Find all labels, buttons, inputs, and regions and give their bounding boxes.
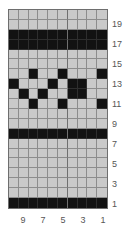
chart-cell[interactable] <box>78 89 88 99</box>
chart-cell[interactable] <box>38 129 48 139</box>
chart-cell[interactable] <box>58 69 68 79</box>
chart-cell[interactable] <box>19 89 29 99</box>
chart-cell[interactable] <box>48 109 58 119</box>
chart-cell[interactable] <box>87 69 97 79</box>
chart-cell[interactable] <box>58 20 68 30</box>
chart-cell[interactable] <box>48 129 58 139</box>
chart-cell[interactable] <box>87 50 97 60</box>
chart-cell[interactable] <box>97 59 107 69</box>
chart-cell[interactable] <box>9 20 19 30</box>
chart-cell[interactable] <box>68 168 78 178</box>
chart-cell[interactable] <box>97 119 107 129</box>
chart-grid[interactable] <box>9 10 107 208</box>
chart-cell[interactable] <box>97 99 107 109</box>
chart-cell[interactable] <box>87 158 97 168</box>
chart-cell[interactable] <box>97 139 107 149</box>
chart-cell[interactable] <box>48 99 58 109</box>
chart-cell[interactable] <box>38 158 48 168</box>
chart-cell[interactable] <box>97 109 107 119</box>
chart-cell[interactable] <box>29 129 39 139</box>
chart-cell[interactable] <box>9 30 19 40</box>
chart-cell[interactable] <box>78 20 88 30</box>
chart-cell[interactable] <box>78 188 88 198</box>
chart-cell[interactable] <box>48 69 58 79</box>
chart-cell[interactable] <box>87 89 97 99</box>
chart-cell[interactable] <box>19 139 29 149</box>
chart-cell[interactable] <box>9 50 19 60</box>
chart-cell[interactable] <box>38 119 48 129</box>
chart-cell[interactable] <box>9 198 19 208</box>
chart-cell[interactable] <box>78 79 88 89</box>
chart-cell[interactable] <box>19 168 29 178</box>
chart-cell[interactable] <box>87 20 97 30</box>
chart-cell[interactable] <box>48 178 58 188</box>
chart-cell[interactable] <box>19 178 29 188</box>
chart-cell[interactable] <box>9 158 19 168</box>
chart-cell[interactable] <box>87 149 97 159</box>
chart-cell[interactable] <box>29 99 39 109</box>
chart-cell[interactable] <box>38 69 48 79</box>
chart-cell[interactable] <box>68 79 78 89</box>
chart-cell[interactable] <box>19 149 29 159</box>
chart-cell[interactable] <box>19 69 29 79</box>
chart-cell[interactable] <box>19 79 29 89</box>
chart-cell[interactable] <box>48 188 58 198</box>
chart-cell[interactable] <box>58 99 68 109</box>
chart-cell[interactable] <box>68 89 78 99</box>
chart-cell[interactable] <box>58 129 68 139</box>
chart-cell[interactable] <box>38 40 48 50</box>
chart-cell[interactable] <box>38 99 48 109</box>
chart-cell[interactable] <box>68 30 78 40</box>
chart-cell[interactable] <box>58 109 68 119</box>
chart-cell[interactable] <box>29 109 39 119</box>
chart-cell[interactable] <box>58 79 68 89</box>
chart-cell[interactable] <box>68 40 78 50</box>
chart-cell[interactable] <box>29 50 39 60</box>
chart-cell[interactable] <box>78 178 88 188</box>
chart-cell[interactable] <box>78 69 88 79</box>
chart-cell[interactable] <box>19 59 29 69</box>
chart-cell[interactable] <box>19 40 29 50</box>
chart-cell[interactable] <box>68 10 78 20</box>
chart-cell[interactable] <box>48 89 58 99</box>
chart-cell[interactable] <box>68 178 78 188</box>
chart-cell[interactable] <box>68 109 78 119</box>
chart-cell[interactable] <box>19 119 29 129</box>
chart-cell[interactable] <box>9 149 19 159</box>
chart-cell[interactable] <box>68 198 78 208</box>
chart-cell[interactable] <box>97 149 107 159</box>
chart-cell[interactable] <box>9 59 19 69</box>
chart-cell[interactable] <box>19 10 29 20</box>
chart-cell[interactable] <box>38 79 48 89</box>
chart-cell[interactable] <box>78 119 88 129</box>
chart-cell[interactable] <box>9 109 19 119</box>
chart-cell[interactable] <box>78 168 88 178</box>
chart-cell[interactable] <box>38 168 48 178</box>
chart-cell[interactable] <box>87 178 97 188</box>
chart-cell[interactable] <box>48 79 58 89</box>
chart-cell[interactable] <box>87 109 97 119</box>
chart-cell[interactable] <box>87 10 97 20</box>
chart-cell[interactable] <box>29 79 39 89</box>
chart-cell[interactable] <box>97 79 107 89</box>
chart-cell[interactable] <box>97 158 107 168</box>
chart-cell[interactable] <box>68 119 78 129</box>
chart-cell[interactable] <box>9 69 19 79</box>
chart-cell[interactable] <box>19 188 29 198</box>
chart-cell[interactable] <box>48 168 58 178</box>
chart-cell[interactable] <box>29 158 39 168</box>
chart-cell[interactable] <box>48 158 58 168</box>
chart-cell[interactable] <box>58 40 68 50</box>
chart-cell[interactable] <box>58 119 68 129</box>
chart-cell[interactable] <box>58 198 68 208</box>
chart-cell[interactable] <box>29 178 39 188</box>
chart-cell[interactable] <box>9 129 19 139</box>
chart-cell[interactable] <box>97 89 107 99</box>
chart-cell[interactable] <box>58 89 68 99</box>
chart-cell[interactable] <box>68 139 78 149</box>
chart-cell[interactable] <box>38 109 48 119</box>
chart-cell[interactable] <box>68 50 78 60</box>
chart-cell[interactable] <box>97 168 107 178</box>
chart-cell[interactable] <box>58 178 68 188</box>
chart-cell[interactable] <box>97 10 107 20</box>
